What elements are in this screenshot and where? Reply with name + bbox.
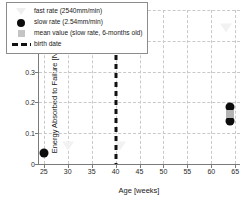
chart-legend: fast rate (2540mm/min)slow rate (2.54mm/…	[6, 2, 148, 54]
triangle-down-icon-glyph	[16, 8, 26, 15]
x-axis-tick-label: 60	[207, 168, 215, 175]
gridline-horizontal	[39, 133, 240, 134]
legend-entry: fast rate (2540mm/min)	[11, 6, 142, 17]
dashed-line-icon-glyph	[12, 43, 31, 46]
x-axis-title: Age [weeks]	[38, 186, 240, 195]
data-point-marker	[220, 24, 232, 33]
circle-icon-glyph	[17, 19, 25, 27]
y-axis-tick	[35, 102, 39, 103]
y-axis-tick	[35, 72, 39, 73]
y-axis-tick	[35, 164, 39, 165]
x-axis-tick-label: 45	[136, 168, 144, 175]
square-icon-glyph	[18, 30, 25, 37]
legend-label: birth date	[34, 41, 62, 48]
x-axis-tick-label: 40	[112, 168, 120, 175]
x-axis-tick-label: 65	[231, 168, 239, 175]
gridline-vertical	[235, 10, 236, 164]
gridline-vertical	[187, 10, 188, 164]
data-point-marker	[39, 149, 48, 158]
square-icon	[11, 30, 31, 37]
legend-entry: slow rate (2.54mm/min)	[11, 17, 142, 28]
x-axis-tick-label: 50	[160, 168, 168, 175]
gridline-vertical	[211, 10, 212, 164]
data-point-marker	[226, 110, 234, 118]
gridline-horizontal	[39, 72, 240, 73]
data-point-marker	[62, 141, 74, 150]
y-axis-tick	[35, 133, 39, 134]
legend-label: mean value (slow rate, 6-months old)	[34, 30, 142, 37]
triangle-down-icon	[11, 8, 31, 15]
y-axis-tick-label: 0.2	[15, 99, 35, 106]
circle-icon	[11, 19, 31, 27]
y-axis-tick-label: 0	[15, 161, 35, 168]
x-axis-tick-label: 35	[88, 168, 96, 175]
x-axis-tick-label: 55	[183, 168, 191, 175]
x-axis-tick-label: 30	[64, 168, 72, 175]
y-axis-tick-label: 0.1	[15, 130, 35, 137]
y-axis-tick-label: 0.3	[15, 68, 35, 75]
legend-entry: birth date	[11, 39, 142, 50]
x-axis-tick-label: 25	[40, 168, 48, 175]
legend-entry: mean value (slow rate, 6-months old)	[11, 28, 142, 39]
gridline-vertical	[163, 10, 164, 164]
legend-label: slow rate (2.54mm/min)	[34, 19, 103, 26]
gridline-horizontal	[39, 102, 240, 103]
legend-label: fast rate (2540mm/min)	[34, 8, 102, 15]
scatter-chart: Energy Absorbed to Failure [Nmm/mm3] 253…	[0, 0, 248, 197]
data-point-marker	[226, 117, 235, 126]
dashed-line-icon	[11, 43, 31, 46]
